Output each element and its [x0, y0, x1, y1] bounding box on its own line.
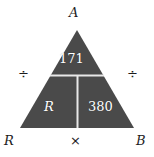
- cell-value-bottom-left: R: [44, 100, 54, 113]
- divide-operator-icon-left: ÷: [18, 67, 29, 80]
- formula-triangle-diagram: A R B ÷ ÷ × 171 R 380: [0, 0, 154, 157]
- vertex-label-bottom-right: B: [136, 134, 146, 147]
- divide-operator-icon-right: ÷: [127, 67, 138, 80]
- cell-value-top: 171: [59, 52, 84, 65]
- vertex-label-apex: A: [69, 6, 78, 19]
- multiply-operator-icon-bottom: ×: [70, 134, 81, 147]
- vertex-label-bottom-left: R: [4, 134, 14, 147]
- cell-value-bottom-right: 380: [88, 100, 113, 113]
